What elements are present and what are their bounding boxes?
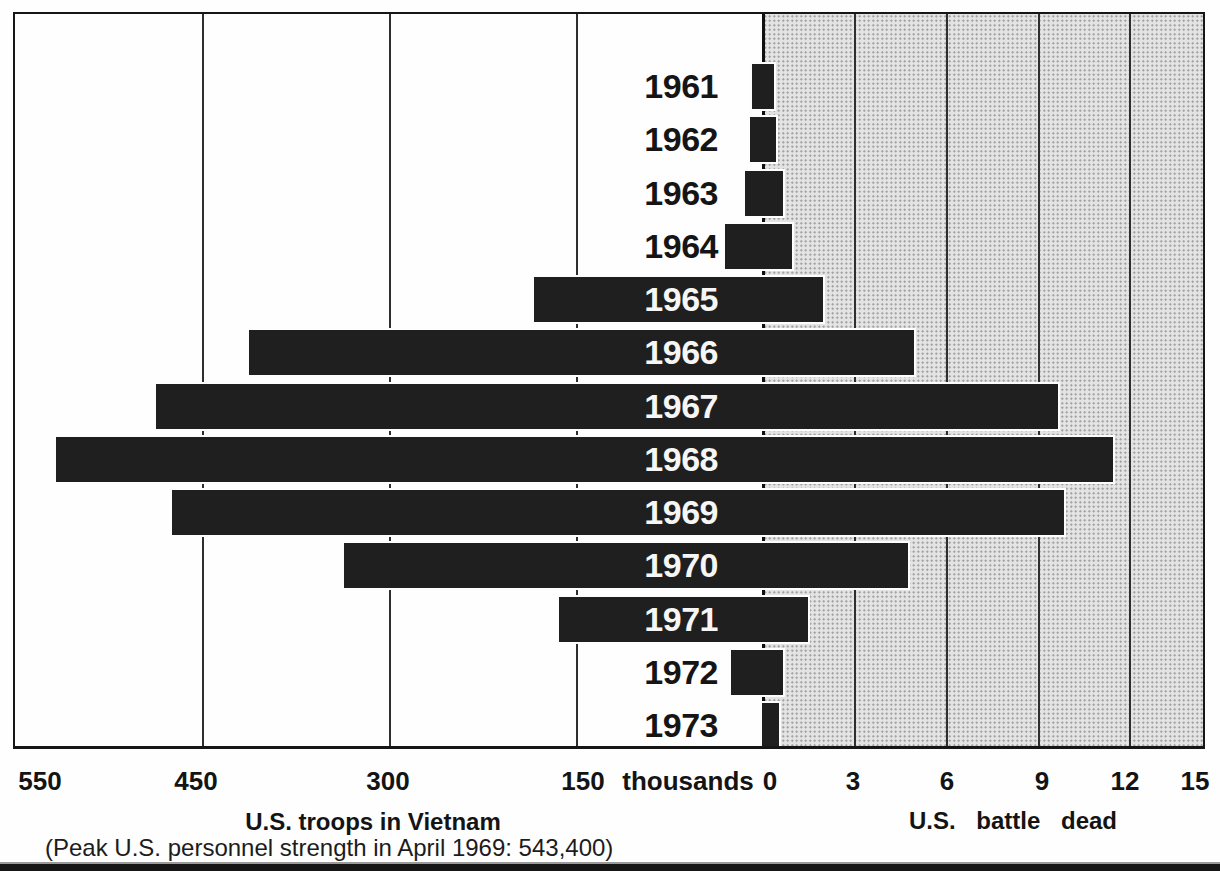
plot-frame bbox=[13, 12, 1205, 749]
axis-tick-right-6: 6 bbox=[940, 766, 954, 797]
vietnam-troops-casualties-chart: 1961196219631964196519661967196819691970… bbox=[0, 0, 1220, 871]
axis-tick-right-15: 15 bbox=[1181, 766, 1210, 797]
axis-tick-right-12: 12 bbox=[1111, 766, 1140, 797]
left-axis-title: U.S. troops in Vietnam bbox=[245, 808, 501, 836]
axis-tick-thousands: thousands bbox=[622, 766, 753, 797]
axis-tick-300: 300 bbox=[366, 766, 409, 797]
axis-tick-450: 450 bbox=[174, 766, 217, 797]
right-axis-title: U.S. battle dead bbox=[909, 807, 1117, 835]
bottom-rule-band bbox=[0, 862, 1220, 871]
peak-strength-note: (Peak U.S. personnel strength in April 1… bbox=[45, 834, 613, 862]
axis-tick-right-9: 9 bbox=[1035, 766, 1049, 797]
axis-tick-right-3: 3 bbox=[846, 766, 860, 797]
axis-tick-150: 150 bbox=[561, 766, 604, 797]
axis-tick-550: 550 bbox=[18, 766, 61, 797]
axis-tick-0: 0 bbox=[763, 766, 777, 797]
